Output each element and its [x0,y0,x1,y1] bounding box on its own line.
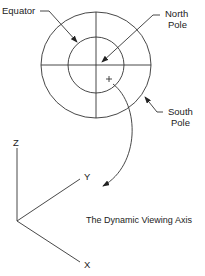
south-pole-label-2: Pole [171,117,190,128]
equator-label: Equator [2,5,35,16]
z-axis-label: Z [13,137,19,148]
south-pole-leader [145,97,163,112]
viewing-curve-arrow [103,84,132,186]
y-axis-label: Y [84,171,91,182]
north-pole-label: North [165,8,188,19]
north-pole-label-2: Pole [168,19,187,30]
y-axis [17,179,80,221]
x-axis [17,221,80,262]
north-pole-leader [102,15,160,62]
x-axis-label: X [84,259,91,270]
dynamic-viewing-diagram: Equator North Pole South Pole Z Y X The … [0,0,205,276]
diagram-caption: The Dynamic Viewing Axis [86,215,192,225]
south-pole-label: South [168,106,193,117]
